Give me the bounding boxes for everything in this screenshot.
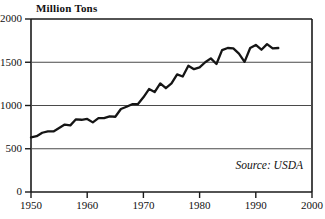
source-annotation: Source: USDA (235, 160, 303, 172)
y-axis-title: Million Tons (36, 3, 97, 14)
x-tick-label-2000: 2000 (292, 200, 325, 211)
x-axis-ticks (31, 192, 312, 198)
x-tick-label-1970: 1970 (123, 200, 163, 211)
x-tick-label-1950: 1950 (11, 200, 51, 211)
data-line-world-grain-production (31, 44, 278, 137)
y-axis-ticks (25, 19, 31, 192)
y-tick-label-500: 500 (0, 143, 22, 154)
y-tick-label-2000: 2000 (0, 13, 22, 24)
x-tick-label-1960: 1960 (67, 200, 107, 211)
gridlines (31, 62, 312, 149)
chart-figure: Million Tons 0 500 1000 1500 2000 1950 1… (0, 0, 325, 219)
y-tick-label-1000: 1000 (0, 100, 22, 111)
chart-canvas (0, 0, 325, 219)
y-tick-label-0: 0 (0, 186, 22, 197)
y-tick-label-1500: 1500 (0, 57, 22, 68)
x-tick-label-1990: 1990 (236, 200, 276, 211)
x-tick-label-1980: 1980 (180, 200, 220, 211)
